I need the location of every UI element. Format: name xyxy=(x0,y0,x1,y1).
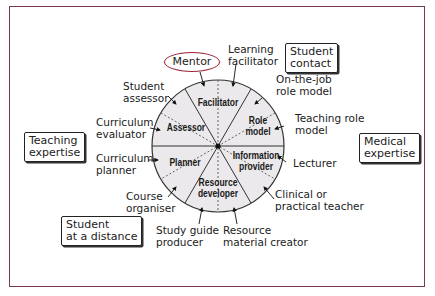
box-student-contact: Studentcontact xyxy=(285,43,338,73)
wheel-center-dot xyxy=(215,143,220,148)
label-teaching-role-model: Teaching rolemodel xyxy=(295,112,364,136)
label-course-organiser: Courseorganiser xyxy=(126,190,175,214)
segment-planner: Planner xyxy=(164,157,207,168)
label-resource-material-creator: Resourcematerial creator xyxy=(223,224,308,248)
label-student-assessor: Studentassessor xyxy=(123,80,169,104)
mentor-label: Mentor xyxy=(164,52,220,72)
box-teaching-expertise: Teachingexpertise xyxy=(24,132,85,162)
label-clinical-teacher: Clinical orpractical teacher xyxy=(275,188,364,212)
segment-information-provider: Informationprovider xyxy=(229,150,283,172)
label-on-the-job-role-model: On-the-jobrole model xyxy=(276,73,332,97)
label-lecturer: Lecturer xyxy=(293,157,337,169)
segment-role-model: Rolemodel xyxy=(239,115,276,137)
segment-assessor: Assessor xyxy=(164,122,208,133)
label-curriculum-evaluator: Curriculumevaluator xyxy=(96,116,154,140)
box-medical-expertise: Medicalexpertise xyxy=(359,133,420,163)
segment-facilitator: Facilitator xyxy=(196,97,240,108)
label-curriculum-planner: Curriculumplanner xyxy=(96,152,154,176)
segment-resource-developer: Resourcedeveloper xyxy=(191,177,245,199)
box-student-at-a-distance: Studentat a distance xyxy=(61,216,142,246)
label-study-guide-producer: Study guideproducer xyxy=(156,224,219,248)
label-learning-facilitator: Learningfacilitator xyxy=(228,43,278,67)
